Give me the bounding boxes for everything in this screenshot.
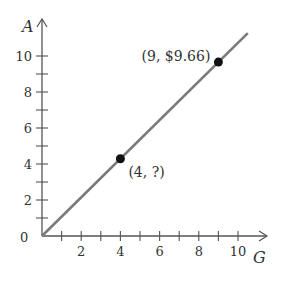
y-tick-label: 6: [24, 121, 32, 136]
line-chart: 246810246810 (4, ?)(9, $9.66) A G 0: [0, 0, 284, 305]
x-tick-label: 8: [195, 244, 203, 259]
x-tick-label: 6: [155, 244, 163, 259]
x-tick-label: 2: [77, 244, 85, 259]
x-tick-label: 4: [116, 244, 124, 259]
data-points: (4, ?)(9, $9.66): [116, 48, 223, 180]
data-point-marker: [214, 58, 223, 67]
data-point-annotation: (9, $9.66): [142, 48, 211, 64]
y-tick-label: 2: [24, 193, 32, 208]
data-point-marker: [116, 154, 125, 163]
y-tick-label: 8: [24, 85, 32, 100]
origin-label: 0: [20, 230, 28, 245]
y-tick-label: 10: [15, 49, 32, 64]
y-tick-label: 4: [24, 157, 32, 172]
data-point-annotation: (4, ?): [128, 164, 164, 180]
y-axis-label: A: [20, 17, 34, 36]
x-axis-label: G: [253, 248, 266, 267]
x-tick-label: 10: [230, 244, 247, 259]
